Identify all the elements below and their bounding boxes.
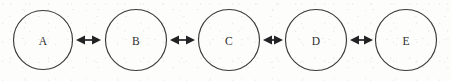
link-d-e-head-right (364, 36, 373, 45)
node-link-diagram: A B C D E (0, 0, 451, 81)
link-a-b[interactable] (76, 36, 101, 45)
node-a[interactable]: A (14, 11, 73, 70)
node-b-label: B (132, 35, 140, 47)
link-a-b-head-right (92, 36, 101, 45)
link-b-c-head-right (186, 36, 195, 45)
diagram-canvas: A B C D E (0, 0, 451, 81)
node-e-label: E (402, 35, 409, 47)
node-c[interactable]: C (199, 10, 260, 71)
link-a-b-head-left (76, 36, 85, 45)
link-b-c-head-left (170, 36, 179, 45)
node-d[interactable]: D (286, 10, 347, 71)
node-b[interactable]: B (106, 10, 167, 71)
link-c-d-head-left (263, 36, 272, 45)
link-c-d[interactable] (263, 36, 283, 45)
link-d-e[interactable] (350, 36, 373, 45)
node-d-label: D (312, 35, 321, 47)
link-d-e-head-left (350, 36, 359, 45)
node-a-label: A (39, 35, 48, 47)
link-b-c[interactable] (170, 36, 195, 45)
node-e[interactable]: E (376, 10, 437, 71)
node-c-label: C (225, 35, 233, 47)
link-c-d-head-right (274, 36, 283, 45)
